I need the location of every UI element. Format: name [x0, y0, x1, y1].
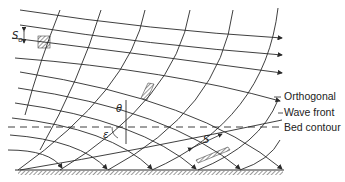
hatched-element-mid — [141, 83, 154, 100]
hatched-element-top — [38, 36, 50, 48]
epsilon-label: ε — [103, 129, 108, 140]
legend-bed-contour: Bed contour — [284, 121, 341, 133]
legend-wave-front: Wave front — [284, 106, 334, 118]
shoreline — [15, 170, 284, 175]
s0-label: So — [12, 30, 23, 44]
s-label: S — [203, 134, 209, 145]
legend-orthogonal: Orthogonal — [284, 90, 336, 102]
theta-label: θ — [116, 103, 122, 114]
